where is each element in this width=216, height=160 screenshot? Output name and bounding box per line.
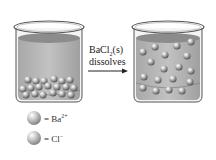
- beaker-before: [14, 21, 84, 102]
- chloride-ion-icon: [27, 131, 41, 145]
- legend-item-chloride: = Cl−: [27, 131, 63, 145]
- beaker-after: [132, 21, 204, 102]
- formula-state: (s): [113, 44, 124, 55]
- reaction-arrow: [88, 69, 128, 74]
- legend-label-chloride: = Cl−: [44, 133, 63, 144]
- dissolution-diagram: BaCl2(s) dissolves = Ba2+ = Cl−: [0, 0, 216, 160]
- legend-item-barium: = Ba2+: [27, 111, 68, 125]
- barium-ion-icon: [27, 111, 41, 125]
- formula-text: BaCl: [89, 44, 110, 55]
- legend-label-barium: = Ba2+: [44, 113, 68, 124]
- arrow-label-verb: dissolves: [89, 56, 126, 67]
